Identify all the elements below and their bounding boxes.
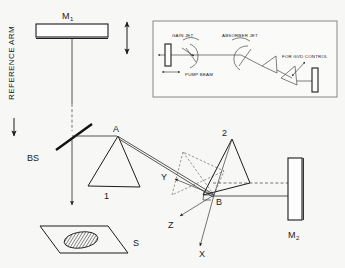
vertex-b-label: B — [216, 197, 222, 207]
beamsplitter-group: BS — [27, 124, 92, 163]
vertex-a-label: A — [113, 124, 119, 134]
prism-2-body — [203, 139, 250, 195]
inset-absorber-jet-label: ABSORBER JET — [222, 33, 258, 38]
beam-a-to-b-upper — [119, 137, 213, 194]
inset-gain-jet-label: GAIN JET — [172, 33, 193, 38]
mirror-m1-group: M 1 — [36, 11, 108, 39]
mirror-m1-body — [36, 24, 108, 37]
laser-cavity-inset: GAIN JET ABSORBER JET PUMP BEAM FOR GVD … — [153, 21, 337, 97]
mirror-m2-body — [288, 158, 302, 220]
inset-right-mirror — [312, 68, 318, 92]
sample-focal-spot — [63, 230, 99, 251]
beamsplitter-label: BS — [27, 153, 39, 163]
inset-gvd-control-label: FOR GVD CONTROL — [282, 54, 328, 59]
mirror-m2-label-subscript: 2 — [296, 235, 300, 241]
prism-1-group: 1 A — [88, 124, 140, 201]
coordinate-axes-at-b: Y Z X B — [161, 172, 222, 259]
reference-arm-label-group: REFERENCE ARM — [7, 26, 16, 136]
optical-setup-figure: REFERENCE ARM M 1 BS 1 A — [0, 0, 345, 268]
figure-canvas: REFERENCE ARM M 1 BS 1 A — [0, 0, 345, 268]
inset-left-mirror — [165, 44, 171, 66]
sample-group: S — [40, 226, 139, 253]
inset-pump-beam-label: PUMP BEAM — [185, 72, 213, 77]
mirror-m1-label: M — [62, 11, 70, 21]
beamsplitter-plate — [56, 124, 92, 150]
mirror-m1-label-subscript: 1 — [70, 16, 74, 22]
rotation-helper-c — [214, 139, 232, 195]
mirror-m2-group: M 2 — [288, 158, 303, 241]
dispersed-beam-bundle — [119, 137, 213, 197]
axis-z-label: Z — [168, 220, 174, 230]
prism-1-body — [88, 136, 140, 187]
prism-2-group: 2 — [203, 128, 250, 195]
prism-2-label: 2 — [222, 128, 227, 138]
axis-x-label: X — [199, 249, 205, 259]
reference-arm-label: REFERENCE ARM — [7, 26, 16, 100]
sample-label: S — [133, 238, 139, 248]
axis-y-label: Y — [161, 172, 167, 182]
prism-1-label: 1 — [104, 191, 109, 201]
beam-a-to-b-lower — [119, 139, 213, 197]
mirror-m2-label: M — [288, 230, 296, 240]
